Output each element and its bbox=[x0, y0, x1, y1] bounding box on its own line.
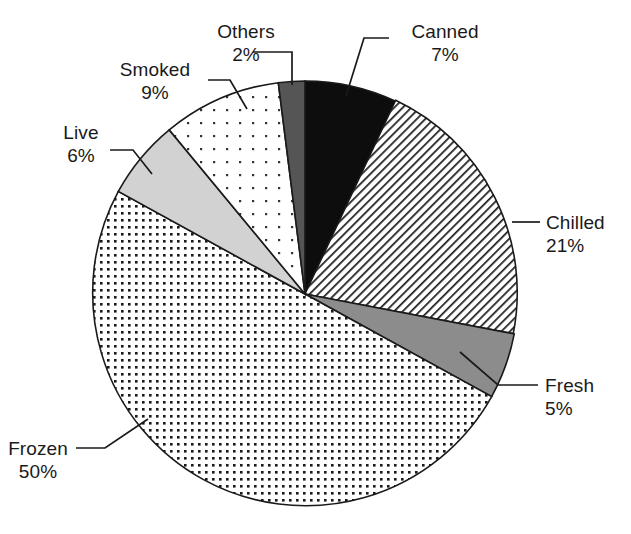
pie-chart: Others 2% Canned 7% Smoked 9% Live 6% Ch… bbox=[0, 0, 631, 534]
slice-label-fresh: Fresh 5% bbox=[545, 374, 625, 420]
slice-label-canned: Canned 7% bbox=[390, 20, 500, 66]
slice-label-smoked-name: Smoked bbox=[100, 58, 210, 81]
slice-label-chilled-percent: 21% bbox=[546, 234, 631, 257]
pie-chart-canvas bbox=[0, 0, 631, 534]
slice-label-live-name: Live bbox=[48, 121, 114, 144]
slice-label-canned-percent: 7% bbox=[390, 43, 500, 66]
slice-label-fresh-percent: 5% bbox=[545, 397, 625, 420]
slice-label-frozen: Frozen 50% bbox=[2, 437, 74, 483]
slice-label-live-percent: 6% bbox=[48, 144, 114, 167]
slice-label-others-percent: 2% bbox=[196, 43, 296, 66]
slice-label-fresh-name: Fresh bbox=[545, 374, 625, 397]
slice-label-canned-name: Canned bbox=[390, 20, 500, 43]
slice-label-others: Others 2% bbox=[196, 20, 296, 66]
slice-label-live: Live 6% bbox=[48, 121, 114, 167]
slice-label-others-name: Others bbox=[196, 20, 296, 43]
slice-label-frozen-percent: 50% bbox=[2, 460, 74, 483]
slice-label-frozen-name: Frozen bbox=[2, 437, 74, 460]
slice-label-smoked-percent: 9% bbox=[100, 81, 210, 104]
slice-label-smoked: Smoked 9% bbox=[100, 58, 210, 104]
slice-label-chilled-name: Chilled bbox=[546, 211, 631, 234]
slice-label-chilled: Chilled 21% bbox=[546, 211, 631, 257]
